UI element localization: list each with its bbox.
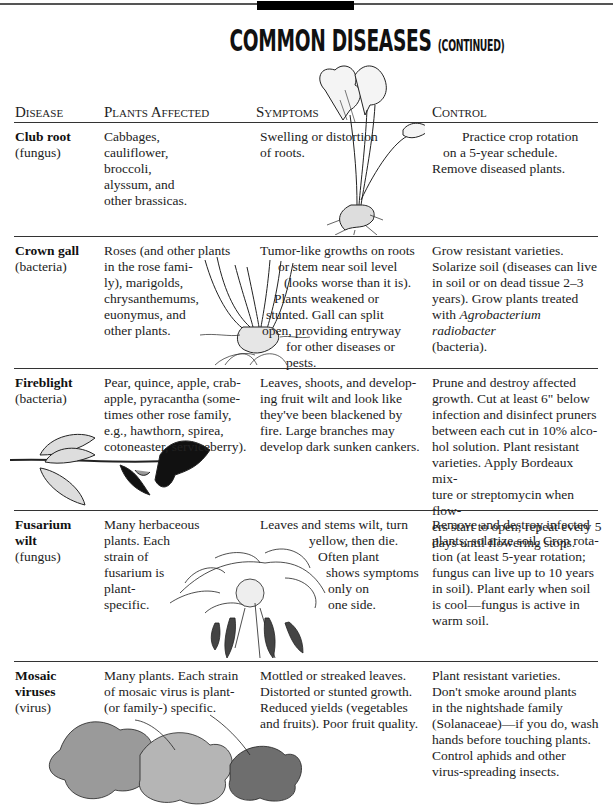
disease-name-cell: Crown gall (bacteria): [15, 243, 79, 275]
page-title: Common Diseases (continued): [140, 26, 520, 61]
text-line: hands before touching plants.: [432, 732, 591, 747]
text-line: cotoneaster, serviceberry).: [104, 439, 246, 454]
plants-affected-cell: Many herbaceousplants. Eachstrain offusa…: [104, 517, 200, 613]
text-line: on a 5-year schedule.: [432, 145, 558, 160]
control-cell: Practice crop rotationon a 5-year schedu…: [432, 129, 602, 177]
text-line: ture or streptomycin when flow-: [432, 487, 574, 518]
header-plants-affected: Plants Affected: [104, 104, 209, 121]
text-line: ly), marigolds,: [104, 275, 183, 290]
disease-name: Fusarium: [15, 517, 71, 532]
text-line: other brassicas.: [104, 193, 187, 208]
text-line: tion (at least 5-year rotation;: [432, 549, 586, 564]
text-line: Don't smoke around plants: [432, 684, 577, 699]
text-line: plants. Each: [104, 533, 170, 548]
header-control: Control: [432, 104, 487, 121]
disease-name-cell: Fusarium wilt (fungus): [15, 517, 71, 565]
text-line: apple, pyracantha (some-: [104, 391, 240, 406]
text-line: ing fruit wilt and look like: [260, 391, 402, 406]
text-line: growth. Cut at least 6" below: [432, 391, 590, 406]
disease-type: (bacteria): [15, 391, 67, 406]
row-divider: [14, 236, 598, 237]
text-line: open, providing entryway: [260, 323, 401, 338]
top-tab-block: [257, 1, 354, 10]
text-line: in soil or on dead tissue 2–3: [432, 275, 584, 290]
text-line: (looks worse than it is).: [260, 275, 411, 290]
disease-type: (bacteria): [15, 259, 67, 274]
text-line: Plants weakened or: [260, 291, 379, 306]
text-line: euonymus, and: [104, 307, 186, 322]
disease-type: (fungus): [15, 549, 61, 564]
text-line: yellow, then die.: [260, 533, 398, 548]
plants-affected-cell: Roses (and other plantsin the rose fami-…: [104, 243, 230, 339]
disease-name: Fireblight: [15, 375, 73, 390]
text-line: plants; solarize soil. Crop rota-: [432, 533, 599, 548]
text-line: Control aphids and other: [432, 748, 566, 763]
text-line: Plant resistant varieties.: [432, 668, 561, 683]
text-line: Solarize soil (diseases can live: [432, 259, 597, 274]
text-line: or stem near soil level: [260, 259, 397, 274]
text-line: alyssum, and: [104, 177, 175, 192]
text-line: plant-: [104, 581, 136, 596]
text-line: chrysanthemums,: [104, 291, 199, 306]
disease-name: Crown gall: [15, 243, 79, 258]
symptoms-cell: Leaves, shoots, and develop-ing fruit wi…: [260, 375, 420, 455]
symptoms-cell: Tumor-like growths on roots or stem near…: [260, 243, 415, 371]
text-line: (Solanaceae)—if you do, wash: [432, 716, 598, 731]
text-line: Remove diseased plants.: [432, 161, 565, 176]
text-line: virus-spreading insects.: [432, 764, 559, 779]
text-line: broccoli,: [104, 161, 152, 176]
text-line: Reduced yields (vegetables: [260, 700, 408, 715]
text-line: hol solution. Plant resistant: [432, 439, 579, 454]
row-divider: [14, 661, 598, 662]
disease-type: (virus): [15, 700, 51, 715]
text-line: Leaves, shoots, and develop-: [260, 375, 416, 390]
page-title-suffix: (continued): [438, 37, 505, 55]
text-line: infection and disinfect pruners: [432, 407, 597, 422]
text-line: in the nightshade family: [432, 700, 563, 715]
text-line: shows symptoms: [260, 565, 419, 580]
disease-name-line2: wilt: [15, 533, 37, 548]
disease-name: Mosaic: [15, 668, 56, 683]
text-line: Cabbages,: [104, 129, 160, 144]
text-line: Practice crop rotation: [432, 129, 578, 144]
text-line: varieties. Apply Bordeaux mix-: [432, 455, 573, 486]
text-line: of mosaic virus is plant-: [104, 684, 234, 699]
text-line: Roses (and other plants: [104, 243, 230, 258]
text-line: one side.: [260, 597, 376, 612]
control-cell: Remove and destroy infectedplants; solar…: [432, 517, 607, 629]
text-line: in the rose fami-: [104, 259, 193, 274]
symptoms-cell: Leaves and stems wilt, turn yellow, then…: [260, 517, 419, 613]
text-line: years). Grow plants treated: [432, 291, 578, 306]
text-line: fusarium is: [104, 565, 164, 580]
text-line: Mottled or streaked leaves.: [260, 668, 406, 683]
text-line: for other diseases or: [260, 339, 395, 354]
text-line: cauliflower,: [104, 145, 168, 160]
text-line: Swelling or distortion: [260, 129, 378, 144]
plants-affected-cell: Pear, quince, apple, crab-apple, pyracan…: [104, 375, 246, 455]
disease-name-cell: Club root (fungus): [15, 129, 71, 161]
symptoms-cell: Mottled or streaked leaves.Distorted or …: [260, 668, 418, 732]
disease-name-cell: Fireblight (bacteria): [15, 375, 73, 407]
text-line: Prune and destroy affected: [432, 375, 576, 390]
plants-affected-cell: Many plants. Each strainof mosaic virus …: [104, 668, 238, 716]
text-line: fungus can live up to 10 years: [432, 565, 594, 580]
control-cell: Grow resistant varieties.Solarize soil (…: [432, 243, 602, 355]
text-line: they've been blackened by: [260, 407, 402, 422]
text-line: with: [432, 307, 456, 322]
control-cell: Plant resistant varieties.Don't smoke ar…: [432, 668, 607, 780]
text-line: Remove and destroy infected: [432, 517, 590, 532]
disease-name-line2: viruses: [15, 684, 56, 699]
text-line: Pear, quince, apple, crab-: [104, 375, 241, 390]
text-line: between each cut in 10% alco-: [432, 423, 597, 438]
text-line: Many herbaceous: [104, 517, 200, 532]
text-line: fire. Large branches may: [260, 423, 395, 438]
disease-name-cell: Mosaic viruses (virus): [15, 668, 56, 716]
text-line: specific.: [104, 597, 149, 612]
text-line: of roots.: [260, 145, 305, 160]
text-line: develop dark sunken cankers.: [260, 439, 420, 454]
text-line: times other rose family,: [104, 407, 231, 422]
disease-name: Club root: [15, 129, 71, 144]
text-line: Many plants. Each strain: [104, 668, 238, 683]
plants-affected-cell: Cabbages,cauliflower,broccoli,alyssum, a…: [104, 129, 187, 209]
text-line: Grow resistant varieties.: [432, 243, 564, 258]
